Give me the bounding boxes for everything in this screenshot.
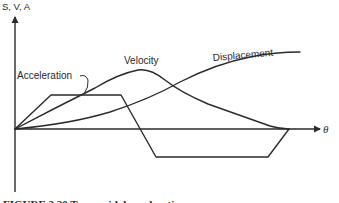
x-axis-label: θ — [323, 123, 329, 135]
acceleration-curve — [15, 95, 289, 157]
velocity-label: Velocity — [124, 55, 158, 66]
figure-caption: FIGURE 3.20 Trapezoidal acceleration... — [3, 198, 194, 203]
acceleration-label: Acceleration — [17, 70, 72, 81]
y-axis: S, V, A — [2, 1, 31, 192]
y-axis-label: S, V, A — [2, 1, 31, 12]
motion-curves-figure: S, V, A θ Acceleration Velocity Displace… — [0, 0, 339, 203]
acceleration-leader-line — [80, 76, 88, 95]
displacement-label: Displacement — [212, 47, 274, 63]
